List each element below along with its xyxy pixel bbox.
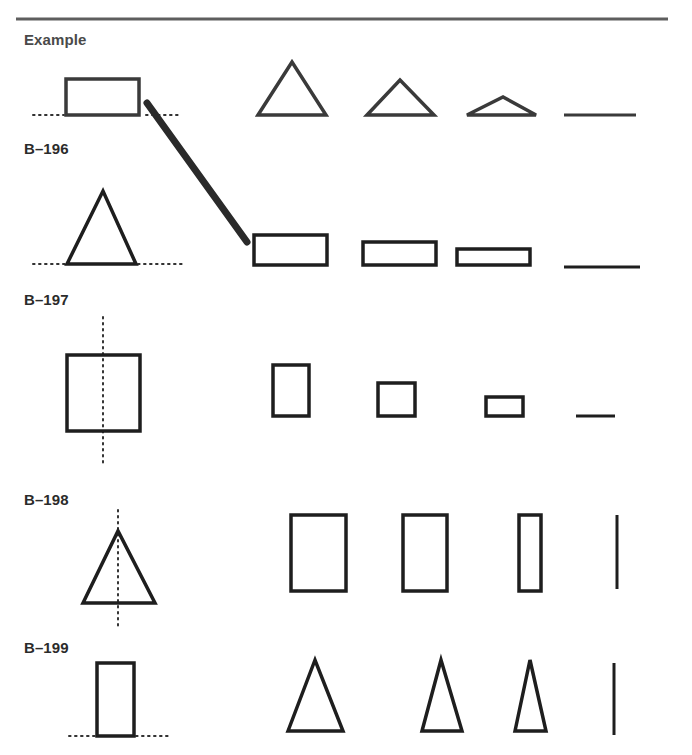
sequence-step-3-triangle <box>467 97 536 115</box>
sequence-step-1-triangle <box>258 62 326 115</box>
sequence-step-1-triangle <box>288 660 343 731</box>
row-b-198 <box>83 510 617 627</box>
rows-layer <box>33 62 640 736</box>
pencil-stroke-connector <box>147 103 247 242</box>
row-label-example: Example <box>24 31 86 48</box>
original-shape-triangle <box>83 531 155 603</box>
row-b-196 <box>33 191 640 267</box>
sequence-step-1-rectangle <box>273 365 309 416</box>
row-label-b-197: B–197 <box>24 291 69 308</box>
sequence-step-2-triangle <box>367 80 434 115</box>
sequence-step-2-triangle <box>422 660 462 731</box>
row-label-b-199: B–199 <box>24 639 69 656</box>
sequence-step-1-rectangle <box>291 515 346 591</box>
row-label-b-196: B–196 <box>24 140 69 157</box>
row-label-b-198: B–198 <box>24 491 69 508</box>
row-b-199 <box>69 660 614 736</box>
original-shape-rectangle <box>66 79 139 115</box>
sequence-step-2-rectangle <box>403 515 447 591</box>
sequence-step-3-rectangle <box>486 397 523 416</box>
sequence-step-3-triangle <box>515 660 546 731</box>
sequence-step-2-rectangle <box>363 242 436 265</box>
original-shape-triangle <box>67 191 136 264</box>
original-shape-rectangle <box>97 663 134 736</box>
transformation-diagram <box>0 0 692 755</box>
row-b-197 <box>67 317 615 466</box>
sequence-step-2-rectangle <box>378 383 415 416</box>
row-example <box>33 62 636 115</box>
sequence-step-3-rectangle <box>457 249 530 265</box>
sequence-step-1-rectangle <box>254 235 327 265</box>
sequence-step-3-rectangle <box>519 515 541 591</box>
